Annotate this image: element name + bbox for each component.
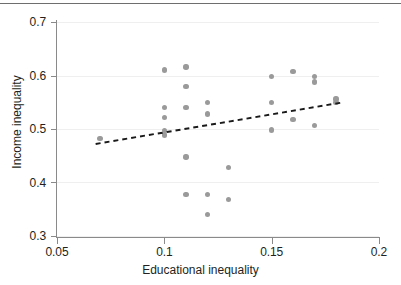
x-axis-label: Educational inequality [0, 263, 401, 277]
trendline-layer [0, 0, 401, 285]
y-axis-label: Income inequality [10, 47, 24, 197]
trendline-dashed [96, 103, 341, 144]
scatter-chart-figure: 0.30.40.50.60.7 0.050.10.150.2 Education… [0, 0, 401, 285]
